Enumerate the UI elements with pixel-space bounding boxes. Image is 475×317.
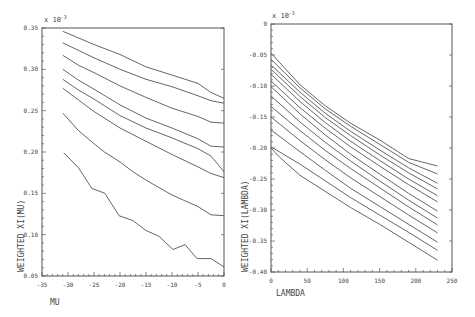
mu-x-axis-label: MU xyxy=(50,298,60,307)
right-scale-label: x 10-3 xyxy=(272,10,295,20)
x-tick-label: -15 xyxy=(141,281,152,288)
mu-axis-ticks: -35-30-25-20-15-10-500.050.100.150.200.2… xyxy=(24,24,227,288)
mu-chart-panel: x 10-3 -35-30-25-20-15-10-500.050.100.15… xyxy=(17,14,226,307)
x-tick-label: -5 xyxy=(194,281,202,288)
series-curve-9 xyxy=(271,107,438,225)
mu-plot-frame xyxy=(42,28,224,276)
y-tick-label: -0.35 xyxy=(249,237,267,244)
x-tick-label: -30 xyxy=(63,281,74,288)
x-tick-label: 250 xyxy=(447,277,458,284)
mu-series-lines xyxy=(63,31,224,267)
series-curve-5 xyxy=(63,79,224,172)
lambda-y-axis-label: WEIGHTED XI(LAMBDA) xyxy=(241,180,250,272)
y-tick-label: 0.05 xyxy=(24,272,39,279)
series-curve-6 xyxy=(63,88,224,177)
x-tick-label: 150 xyxy=(374,277,385,284)
y-tick-label: 0.15 xyxy=(24,189,39,196)
figure: x 10-3 -35-30-25-20-15-10-500.050.100.15… xyxy=(0,0,475,317)
series-curve-2 xyxy=(63,43,224,103)
y-tick-label: -0.20 xyxy=(249,144,267,151)
x-tick-label: 0 xyxy=(222,281,226,288)
lambda-x-axis-label: LAMBDA xyxy=(276,289,305,298)
y-tick-label: 0.20 xyxy=(24,148,39,155)
series-curve-13 xyxy=(271,148,438,260)
x-tick-label: 50 xyxy=(304,277,312,284)
lambda-series-lines xyxy=(271,53,438,260)
mu-y-axis-label: WEIGHTED XI(MU) xyxy=(17,200,26,272)
x-tick-label: 0 xyxy=(269,277,273,284)
x-tick-label: -20 xyxy=(115,281,126,288)
series-curve-1 xyxy=(63,31,224,98)
series-curve-8 xyxy=(64,153,224,267)
series-curve-11 xyxy=(271,130,438,242)
y-tick-label: 0.25 xyxy=(24,107,39,114)
y-tick-label: -0.30 xyxy=(249,206,267,213)
series-curve-12 xyxy=(271,147,438,251)
series-curve-4 xyxy=(63,69,224,147)
x-tick-label: -35 xyxy=(37,281,48,288)
y-tick-label: 0.35 xyxy=(24,24,39,31)
x-tick-label: 200 xyxy=(410,277,421,284)
left-scale-label: x 10-3 xyxy=(44,14,67,24)
y-tick-label: -0.40 xyxy=(249,268,267,275)
x-tick-label: -10 xyxy=(167,281,178,288)
y-tick-label: -0.10 xyxy=(249,82,267,89)
y-tick-label: 0 xyxy=(263,20,267,27)
x-tick-label: -25 xyxy=(89,281,100,288)
y-tick-label: 0.30 xyxy=(24,65,39,72)
y-tick-label: -0.05 xyxy=(249,51,267,58)
lambda-chart-panel: x 10-3 0501001502002500-0.05-0.10-0.15-0… xyxy=(241,10,458,298)
y-tick-label: -0.15 xyxy=(249,113,267,120)
y-tick-label: -0.25 xyxy=(249,175,267,182)
series-curve-7 xyxy=(63,113,224,216)
x-tick-label: 100 xyxy=(338,277,349,284)
series-curve-6 xyxy=(271,81,438,202)
series-curve-3 xyxy=(271,65,438,183)
